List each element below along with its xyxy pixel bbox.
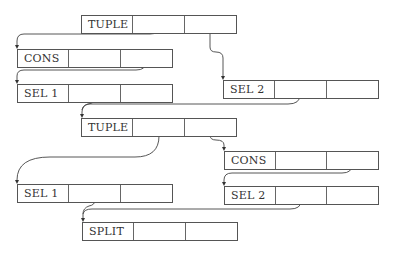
pointer-cell [121,85,172,102]
pointer-cell [276,152,327,169]
node-label: TUPLE [82,119,133,136]
pointer-cell [276,187,327,204]
pointer-cell [69,185,120,202]
pointer-cell [185,119,236,136]
pointer-cell [134,223,185,240]
node-cons-lower: CONS [224,151,379,170]
node-label: CONS [225,152,276,169]
node-split: SPLIT [82,222,238,241]
node-tuple-top: TUPLE [81,15,237,34]
pointer-cell [327,81,378,98]
linked-node-diagram: TUPLE CONS SEL 1 SEL 2 TUPLE CONS SEL 1 … [0,0,397,256]
node-tuple-middle: TUPLE [81,118,237,137]
node-label: SEL 1 [18,85,69,102]
pointer-cell [69,50,120,67]
pointer-cell [327,152,378,169]
pointer-cell [133,119,184,136]
node-label: CONS [18,50,69,67]
node-label: SPLIT [83,223,134,240]
node-sel2-upper: SEL 2 [223,80,379,99]
node-label: SEL 2 [224,81,275,98]
node-cons-upper: CONS [17,49,173,68]
pointer-cell [185,16,236,33]
pointer-cell [275,81,326,98]
pointer-cell [133,16,184,33]
node-sel2-lower: SEL 2 [224,186,379,205]
node-label: SEL 1 [18,185,69,202]
pointer-cell [186,223,237,240]
node-sel1-lower: SEL 1 [17,184,173,203]
pointer-cell [327,187,378,204]
node-sel1-upper: SEL 1 [17,84,173,103]
pointer-cell [121,185,172,202]
pointer-cell [121,50,172,67]
pointer-cell [69,85,120,102]
node-label: SEL 2 [225,187,276,204]
node-label: TUPLE [82,16,133,33]
